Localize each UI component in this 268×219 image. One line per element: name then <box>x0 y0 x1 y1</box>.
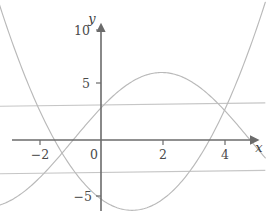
upper-auxiliary-line <box>0 103 265 106</box>
y-tick-label-minus5: −5 <box>74 189 92 204</box>
y-tick-label-5: 5 <box>82 76 90 91</box>
x-tick-label-minus2: −2 <box>31 147 49 162</box>
y-axis-label: y <box>87 11 96 26</box>
sinusoid-curve <box>0 73 265 206</box>
x-tick-label-4: 4 <box>221 147 229 162</box>
x-axis-label: x <box>255 140 263 155</box>
lower-auxiliary-line <box>0 170 265 173</box>
x-tick-label-2: 2 <box>159 147 167 162</box>
origin-label-0: 0 <box>90 147 98 162</box>
y-axis-arrow-icon <box>96 23 105 32</box>
coordinate-plot: 10 5 −5 −2 0 2 4 x y <box>0 0 268 219</box>
chart-canvas: 10 5 −5 −2 0 2 4 x y <box>0 0 268 219</box>
